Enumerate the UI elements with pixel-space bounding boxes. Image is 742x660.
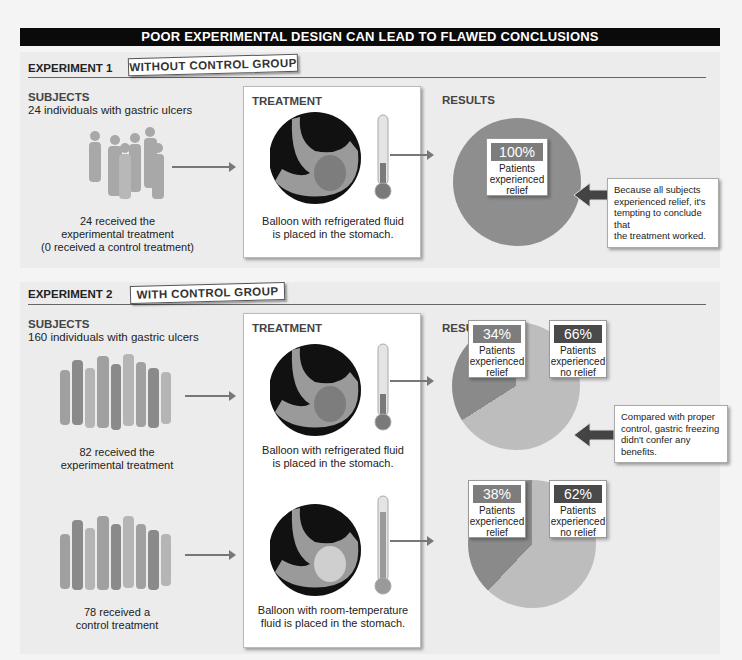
- arrow-to-treatment-icon: [172, 166, 230, 168]
- result-card-relief: 34% Patients experienced relief: [468, 320, 526, 378]
- treatment-1-caption: Balloon with refrigerated fluid is place…: [244, 444, 422, 470]
- result-card-no-relief: 62% Patients experienced no relief: [549, 480, 607, 538]
- subjects-heading: SUBJECTS: [28, 91, 89, 103]
- people-group-icon: [80, 126, 170, 206]
- treatment-2-caption: Balloon with room-temperature fluid is p…: [244, 604, 422, 630]
- arrow-to-results-1-icon: [390, 380, 428, 382]
- treatment-heading: TREATMENT: [252, 95, 322, 107]
- callout-arrow-icon: [572, 420, 616, 450]
- stomach-cold-balloon-icon: [270, 111, 400, 206]
- divider: [28, 304, 706, 305]
- group-caption: 24 received the experimental treatment (…: [30, 215, 205, 254]
- experimental-group-caption: 82 received the experimental treatment: [42, 446, 192, 472]
- stomach-room-temp-balloon-icon: [270, 494, 400, 599]
- results-heading: RESULTS: [442, 94, 495, 106]
- arrow-to-treatment-2-icon: [185, 554, 230, 556]
- with-control-tag: WITH CONTROL GROUP: [130, 282, 285, 304]
- figure-title: POOR EXPERIMENTAL DESIGN CAN LEAD TO FLA…: [20, 28, 720, 46]
- result-card-no-relief: 66% Patients experienced no relief: [549, 320, 607, 378]
- control-group-caption: 78 received a control treatment: [42, 606, 192, 632]
- result-card-relief: 100% Patients experienced relief: [486, 138, 548, 196]
- treatment-heading: TREATMENT: [252, 322, 322, 334]
- callout-note: Because all subjects experienced relief,…: [607, 178, 719, 248]
- experiment-1-panel: EXPERIMENT 1 WITHOUT CONTROL GROUP SUBJE…: [20, 52, 720, 268]
- control-group-icon: [58, 510, 178, 600]
- callout-note: Compared with proper control, gastric fr…: [614, 405, 728, 463]
- experiment-2-heading: EXPERIMENT 2: [28, 288, 112, 300]
- divider: [28, 77, 706, 78]
- experiment-2-panel: EXPERIMENT 2 WITH CONTROL GROUP SUBJECTS…: [20, 282, 720, 654]
- treatment-box: TREATMENT Balloon with refrigerated flui…: [243, 313, 421, 648]
- arrow-to-results-icon: [390, 154, 428, 156]
- treatment-box: TREATMENT Balloon with refrigerated flui…: [243, 86, 421, 258]
- subjects-text: 24 individuals with gastric ulcers: [28, 104, 192, 116]
- stomach-cold-balloon-icon: [270, 338, 400, 438]
- subjects-text: 160 individuals with gastric ulcers: [28, 331, 199, 343]
- experimental-group-icon: [58, 350, 178, 440]
- result-card-relief: 38% Patients experienced relief: [468, 480, 526, 538]
- arrow-to-results-2-icon: [390, 540, 428, 542]
- subjects-heading: SUBJECTS: [28, 318, 89, 330]
- arrow-to-treatment-1-icon: [185, 395, 230, 397]
- without-control-tag: WITHOUT CONTROL GROUP: [128, 54, 298, 76]
- experiment-1-heading: EXPERIMENT 1: [28, 62, 112, 74]
- treatment-caption: Balloon with refrigerated fluid is place…: [244, 215, 422, 241]
